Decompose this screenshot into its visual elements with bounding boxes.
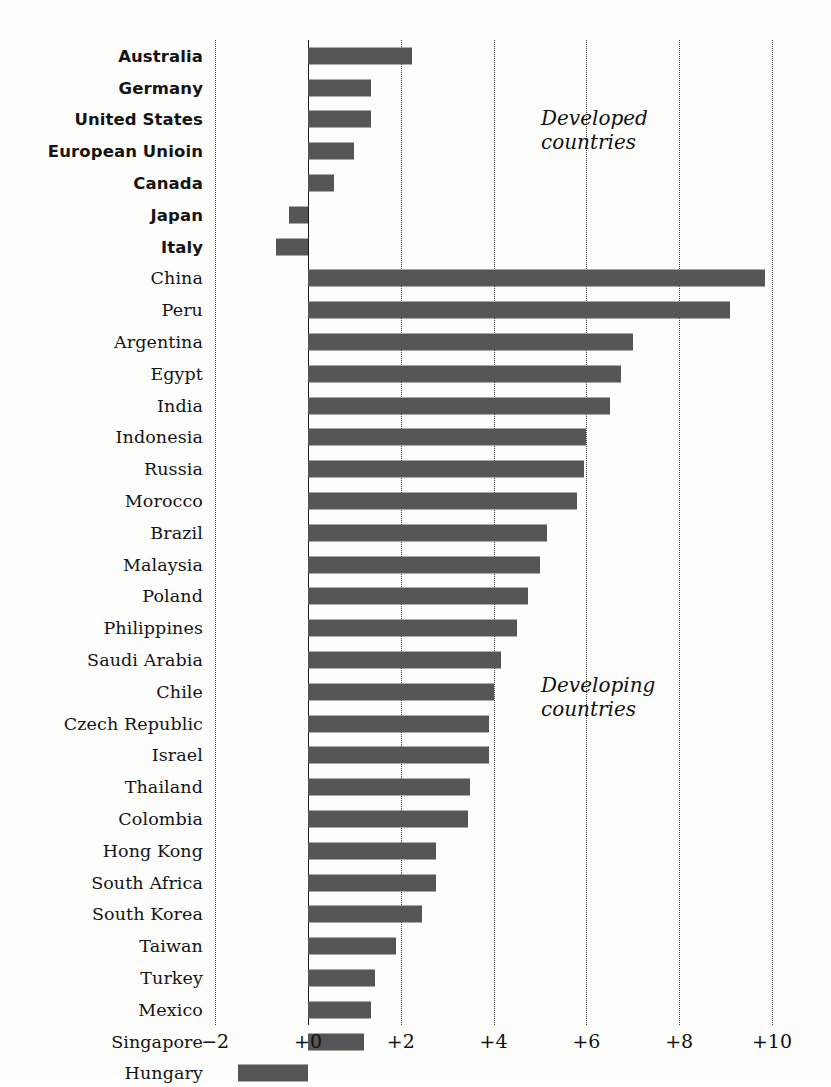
bar-label-japan: Japan: [151, 205, 203, 224]
bar-peru: [308, 302, 730, 319]
bar-label-peru: Peru: [162, 300, 203, 320]
table-row: Hong Kong: [0, 835, 831, 867]
bar-european-unioin: [308, 143, 354, 160]
bar-hungary: [238, 1065, 308, 1082]
table-row: Japan: [0, 199, 831, 231]
bar-philippines: [308, 620, 517, 637]
table-row: Brazil: [0, 517, 831, 549]
x-tick-label: +0: [294, 1030, 322, 1052]
bar-label-thailand: Thailand: [125, 777, 203, 797]
bar-label-philippines: Philippines: [103, 618, 203, 638]
x-tick-label: +6: [572, 1030, 600, 1052]
bar-argentina: [308, 334, 633, 351]
bar-label-turkey: Turkey: [140, 968, 203, 988]
table-row: Taiwan: [0, 930, 831, 962]
table-row: Egypt: [0, 358, 831, 390]
table-row: Turkey: [0, 962, 831, 994]
annotation-developed-countries: Developed countries: [541, 107, 648, 154]
table-row: Italy: [0, 231, 831, 263]
table-row: European Unioin: [0, 135, 831, 167]
bar-label-germany: Germany: [119, 78, 203, 97]
bar-label-russia: Russia: [144, 459, 203, 479]
bar-australia: [308, 47, 412, 64]
bar-canada: [308, 175, 334, 192]
bar-indonesia: [308, 429, 586, 446]
bar-label-canada: Canada: [133, 174, 203, 193]
bar-label-hong-kong: Hong Kong: [103, 841, 203, 861]
bar-label-malaysia: Malaysia: [123, 555, 203, 575]
bar-malaysia: [308, 556, 540, 573]
bar-label-india: India: [157, 396, 203, 416]
bar-hong-kong: [308, 842, 436, 859]
x-tick-label: +2: [387, 1030, 415, 1052]
table-row: United States: [0, 104, 831, 136]
table-row: Mexico: [0, 994, 831, 1026]
bar-label-egypt: Egypt: [150, 364, 203, 384]
table-row: China: [0, 263, 831, 295]
bar-label-united-states: United States: [74, 110, 203, 129]
bar-mexico: [308, 1001, 371, 1018]
table-row: Argentina: [0, 326, 831, 358]
bar-label-singapore: Singapore: [111, 1032, 203, 1052]
bar-saudi-arabia: [308, 652, 501, 669]
table-row: South Korea: [0, 899, 831, 931]
bar-taiwan: [308, 938, 396, 955]
bar-label-chile: Chile: [156, 682, 203, 702]
bar-label-morocco: Morocco: [125, 491, 203, 511]
table-row: Russia: [0, 453, 831, 485]
bar-label-czech-republic: Czech Republic: [64, 714, 203, 734]
table-row: Colombia: [0, 803, 831, 835]
bar-brazil: [308, 524, 547, 541]
bar-italy: [276, 238, 308, 255]
bar-label-brazil: Brazil: [150, 523, 203, 543]
table-row: Czech Republic: [0, 708, 831, 740]
table-row: Saudi Arabia: [0, 644, 831, 676]
table-row: Philippines: [0, 612, 831, 644]
table-row: Malaysia: [0, 549, 831, 581]
bar-label-italy: Italy: [161, 237, 203, 256]
table-row: Chile: [0, 676, 831, 708]
bar-label-indonesia: Indonesia: [116, 427, 203, 447]
bar-label-european-unioin: European Unioin: [48, 142, 203, 161]
bar-label-hungary: Hungary: [125, 1063, 203, 1083]
bar-united-states: [308, 111, 371, 128]
table-row: South Africa: [0, 867, 831, 899]
bar-chile: [308, 683, 494, 700]
table-row: Israel: [0, 740, 831, 772]
bar-germany: [308, 79, 371, 96]
bar-india: [308, 397, 610, 414]
bar-label-poland: Poland: [142, 586, 203, 606]
table-row: Canada: [0, 167, 831, 199]
bar-south-korea: [308, 906, 422, 923]
bar-label-colombia: Colombia: [118, 809, 203, 829]
table-row: Poland: [0, 581, 831, 613]
table-row: Indonesia: [0, 422, 831, 454]
bar-japan: [289, 206, 308, 223]
bar-turkey: [308, 970, 375, 987]
bar-china: [308, 270, 765, 287]
table-row: Hungary: [0, 1058, 831, 1087]
table-row: India: [0, 390, 831, 422]
bar-label-mexico: Mexico: [138, 1000, 203, 1020]
bar-label-saudi-arabia: Saudi Arabia: [87, 650, 203, 670]
bar-israel: [308, 747, 489, 764]
bar-label-israel: Israel: [152, 745, 203, 765]
x-tick-label: −2: [201, 1030, 229, 1052]
bar-egypt: [308, 365, 621, 382]
bar-label-china: China: [151, 268, 203, 288]
bar-label-south-africa: South Africa: [91, 873, 203, 893]
bar-czech-republic: [308, 715, 489, 732]
bar-poland: [308, 588, 528, 605]
bar-thailand: [308, 779, 470, 796]
bar-russia: [308, 461, 584, 478]
x-tick-label: +8: [665, 1030, 693, 1052]
x-tick-label: +10: [752, 1030, 792, 1052]
table-row: Germany: [0, 72, 831, 104]
table-row: Singapore: [0, 1026, 831, 1058]
table-row: Peru: [0, 294, 831, 326]
bar-south-africa: [308, 874, 436, 891]
bar-label-australia: Australia: [118, 46, 203, 65]
bar-morocco: [308, 493, 577, 510]
